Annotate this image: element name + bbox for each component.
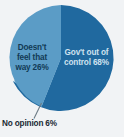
pie-chart: Gov't out of control 68% Doesn't feel th… (0, 0, 124, 137)
pie-chart-graphic (0, 0, 124, 137)
pie-slices (9, 5, 113, 111)
